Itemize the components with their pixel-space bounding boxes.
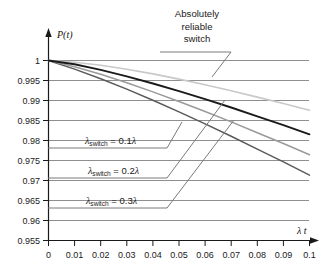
y-tick-marks bbox=[43, 61, 48, 241]
series-label-0.3: λswitch = 0.3λ bbox=[48, 120, 234, 208]
series-label-text-0.1: λswitch = 0.1λ bbox=[84, 135, 137, 147]
annotation-line-1: Absolutely bbox=[175, 8, 219, 19]
series-curves bbox=[49, 61, 310, 176]
x-tick-label: 0.03 bbox=[118, 250, 136, 260]
equation-text-0.2: = 0.2 bbox=[111, 165, 135, 176]
chart-container: 1 0.995 0.99 0.985 0.98 0.975 0.97 0.965… bbox=[0, 0, 326, 267]
curve-lambda-switch-0.3 bbox=[49, 61, 310, 176]
annotation-line-3: switch bbox=[184, 33, 211, 44]
y-tick-label: 0.995 bbox=[17, 76, 40, 86]
y-tick-label: 0.955 bbox=[17, 236, 40, 246]
lambda-glyph-rhs-0.3: λ bbox=[132, 195, 138, 206]
x-tick-labels: 0 0.01 0.02 0.03 0.04 0.05 0.06 0.07 0.0… bbox=[46, 250, 316, 260]
leader-line-0.3 bbox=[83, 120, 234, 208]
y-tick-labels: 1 0.995 0.99 0.985 0.98 0.975 0.97 0.965… bbox=[17, 56, 40, 246]
equation-text-0.3: = 0.3 bbox=[109, 195, 133, 206]
x-tick-label: 0.06 bbox=[196, 250, 214, 260]
lambda-glyph-rhs-0.2: λ bbox=[134, 165, 140, 176]
x-tick-label: 0 bbox=[46, 250, 51, 260]
x-axis-label: λ t bbox=[296, 225, 307, 236]
leader-line-reliable bbox=[160, 52, 231, 77]
x-axis-arrow bbox=[310, 237, 319, 243]
x-tick-label: 0.07 bbox=[222, 250, 240, 260]
x-tick-label: 0.09 bbox=[275, 250, 293, 260]
lambda-subscript-0.2: switch bbox=[92, 170, 111, 177]
y-tick-label: 0.985 bbox=[17, 116, 40, 126]
x-tick-label: 0.08 bbox=[249, 250, 267, 260]
series-label-0.1: λswitch = 0.1λ bbox=[48, 122, 182, 148]
y-axis-arrow bbox=[45, 28, 51, 37]
lambda-subscript-0.3: switch bbox=[90, 200, 109, 207]
y-axis-label: P(t) bbox=[56, 29, 73, 41]
y-tick-label: 1 bbox=[35, 56, 40, 66]
y-tick-label: 0.96 bbox=[22, 216, 40, 226]
x-tick-label: 0.1 bbox=[303, 250, 316, 260]
x-tick-label: 0.02 bbox=[92, 250, 110, 260]
series-label-text-0.3: λswitch = 0.3λ bbox=[85, 195, 138, 207]
y-tick-label: 0.975 bbox=[17, 156, 40, 166]
y-tick-label: 0.98 bbox=[22, 136, 40, 146]
x-axis bbox=[48, 237, 319, 243]
line-chart: 1 0.995 0.99 0.985 0.98 0.975 0.97 0.965… bbox=[0, 0, 326, 267]
y-tick-label: 0.97 bbox=[22, 176, 40, 186]
x-tick-label: 0.05 bbox=[170, 250, 188, 260]
curve-lambda-switch-0.1 bbox=[49, 61, 310, 135]
equation-text-0.1: = 0.1 bbox=[108, 135, 132, 146]
y-tick-label: 0.99 bbox=[22, 96, 40, 106]
y-tick-label: 0.965 bbox=[17, 196, 40, 206]
series-label-text-0.2: λswitch = 0.2λ bbox=[87, 165, 140, 177]
x-tick-label: 0.01 bbox=[66, 250, 84, 260]
lambda-subscript-0.1: switch bbox=[89, 140, 108, 147]
annotation-line-2: reliable bbox=[182, 21, 213, 32]
lambda-glyph-rhs-0.1: λ bbox=[131, 135, 137, 146]
annotation-absolutely-reliable-switch: Absolutely reliable switch bbox=[160, 8, 231, 77]
x-tick-label: 0.04 bbox=[144, 250, 162, 260]
